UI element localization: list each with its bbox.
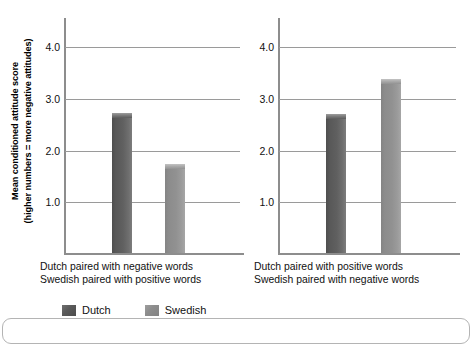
bar-left-swedish[interactable] [165,164,185,254]
gridline-3: 3.0 [65,99,240,100]
y-axis-label-line-1: Mean conditioned attitude score [9,39,22,224]
bar-body [381,79,401,253]
bar-cap [326,114,346,119]
panel-caption-left-line-2: Swedish paired with positive words [40,274,246,287]
gridline-3: 3.0 [279,99,456,100]
legend-item-dutch[interactable]: Dutch [62,304,111,316]
gridline-2: 2.0 [279,151,456,152]
x-axis-baseline-right [278,253,460,255]
x-axis-baseline-left [64,253,244,255]
y-axis-label-line-2: (higher numbers = more negative attitude… [21,39,34,224]
bar-cap [381,79,401,84]
bar-right-swedish[interactable] [381,79,401,253]
panel-caption-left: Dutch paired with negative words Swedish… [40,261,246,286]
gridline-1: 1.0 [279,202,456,203]
panel-caption-right-line-2: Swedish paired with negative words [254,274,460,287]
legend-item-swedish[interactable]: Swedish [145,304,207,316]
chart-panel-right: 4.0 3.0 2.0 1.0 Dutch paired with po [248,0,460,300]
legend-swatch-swedish-icon [145,305,159,316]
panel-caption-left-line-1: Dutch paired with negative words [40,261,246,274]
figure-bottom-frame [2,318,470,344]
gridline-1: 1.0 [65,202,240,203]
gridline-2: 2.0 [65,151,240,152]
gridline-4: 4.0 [279,47,456,48]
plot-area-right: 4.0 3.0 2.0 1.0 [278,18,456,255]
bar-body [165,164,185,254]
gridline-4: 4.0 [65,47,240,48]
y-tick-label-2: 2.0 [259,145,274,157]
y-tick-label-1: 1.0 [259,196,274,208]
y-axis-line-left [64,18,66,255]
y-tick-label-1: 1.0 [45,196,60,208]
y-tick-label-4: 4.0 [259,41,274,53]
y-axis-line-right [278,18,280,255]
panel-caption-right: Dutch paired with positive words Swedish… [254,261,460,286]
y-tick-label-3: 3.0 [259,93,274,105]
bar-left-dutch[interactable] [112,113,132,254]
legend-label-dutch: Dutch [82,304,111,316]
y-tick-label-4: 4.0 [45,41,60,53]
bar-body [112,113,132,254]
panel-caption-right-line-1: Dutch paired with positive words [254,261,460,274]
bar-body [326,114,346,254]
legend-label-swedish: Swedish [165,304,207,316]
bar-right-dutch[interactable] [326,114,346,254]
bar-cap [112,113,132,118]
legend-swatch-dutch-icon [62,305,76,316]
y-tick-label-2: 2.0 [45,145,60,157]
plot-area-left: 4.0 3.0 2.0 1.0 [64,18,240,255]
y-tick-label-3: 3.0 [45,93,60,105]
bar-cap [165,164,185,169]
chart-legend: Dutch Swedish [0,301,473,319]
chart-panel-left: 4.0 3.0 2.0 1.0 Dutch paired with ne [36,0,246,300]
